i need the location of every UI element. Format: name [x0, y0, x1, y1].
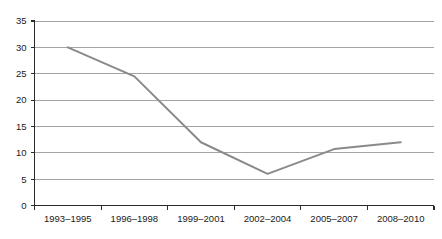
- chart-background: [0, 0, 442, 239]
- y-tick-label: 0: [21, 200, 26, 211]
- y-tick-label: 30: [16, 42, 27, 53]
- y-tick-label: 20: [16, 94, 27, 105]
- x-tick-label: 1999–2001: [177, 213, 225, 224]
- line-chart: 05101520253035 1993–19951996–19981999–20…: [0, 0, 442, 239]
- x-tick-label: 1993–1995: [44, 213, 92, 224]
- chart-canvas: 05101520253035 1993–19951996–19981999–20…: [0, 0, 442, 239]
- y-tick-label: 35: [16, 15, 27, 26]
- y-tick-label: 5: [21, 174, 26, 185]
- x-tick-label: 1996–1998: [111, 213, 159, 224]
- x-tick-label: 2008–2010: [377, 213, 425, 224]
- x-tick-label: 2002–2004: [244, 213, 292, 224]
- y-tick-label: 10: [16, 147, 27, 158]
- y-tick-label: 25: [16, 68, 27, 79]
- y-tick-label: 15: [16, 121, 27, 132]
- x-tick-label: 2005–2007: [310, 213, 358, 224]
